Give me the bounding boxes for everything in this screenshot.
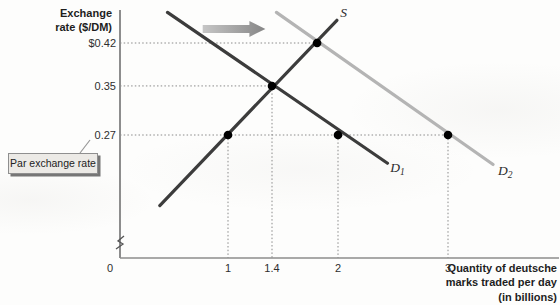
demand-curve-2-label: D2 [498,162,513,179]
demand-curve-1-label: D1 [390,160,405,177]
par-exchange-rate-label: Par exchange rate [8,153,98,174]
x-tick-2: 2 [335,262,341,274]
x-tick-0: 0 [107,262,113,274]
exchange-rate-diagram: Exchange rate ($/DM) Quantity of deutsch… [0,0,560,305]
x-tick-3: 3 [445,262,451,274]
x-tick-1-4: 1.4 [264,262,279,274]
supply-curve-label: S [340,4,347,21]
x-tick-1: 1 [225,262,231,274]
